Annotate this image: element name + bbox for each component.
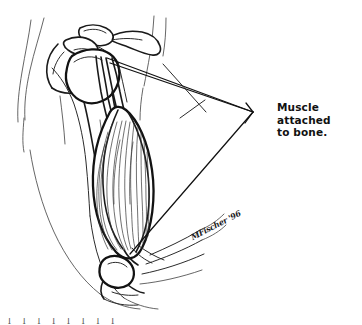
humeral-head xyxy=(66,49,119,103)
clipped-caption-text: l l l l l l l l xyxy=(8,318,362,325)
clipped-caption: l l l l l l l l xyxy=(0,318,362,325)
neck-and-upper-torso-contour xyxy=(140,16,166,120)
anatomy-figure: Muscle attached to bone. MFischer '96 l … xyxy=(0,0,362,325)
torso-contour xyxy=(18,18,44,152)
anatomy-drawing-canvas xyxy=(0,0,362,325)
callout-label-muscle-attached-to-bone: Muscle attached to bone. xyxy=(277,101,361,139)
